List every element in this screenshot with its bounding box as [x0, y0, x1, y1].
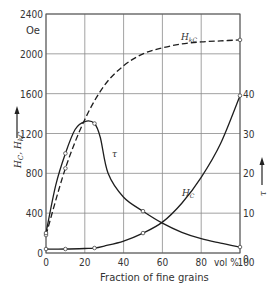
grid	[46, 14, 240, 253]
curve-label-hkc: HkC	[180, 32, 197, 43]
arrow-up-icon	[260, 157, 265, 185]
chart: 04008001200160020002400 010203040 020406…	[0, 0, 272, 286]
x-tick: 100	[237, 257, 254, 268]
series-line-	[46, 121, 240, 247]
data-point-marker	[141, 209, 145, 213]
y-tick-right: 30	[243, 129, 255, 140]
y-tick-right: 40	[243, 89, 255, 100]
data-point-marker	[44, 231, 48, 235]
y-tick-right: 10	[243, 208, 255, 219]
curve-label-tau: τ	[112, 149, 118, 159]
data-point-marker	[44, 247, 48, 251]
y-axis-right-ticks: 010203040	[243, 89, 255, 265]
x-tick: 60	[157, 257, 169, 268]
y-tick-left: 1600	[20, 89, 43, 100]
y-axis-left-label: HC, HkC	[13, 131, 25, 169]
y-tick-right: 20	[243, 168, 255, 179]
y-tick-left: 400	[26, 208, 43, 219]
y-tick-left: 2400	[20, 9, 43, 20]
data-point-marker	[64, 152, 68, 156]
data-point-marker	[93, 122, 97, 126]
x-tick: 80	[195, 257, 207, 268]
data-point-marker	[141, 231, 145, 235]
data-point-marker	[238, 245, 242, 249]
series-line-hc	[46, 96, 240, 249]
data-point-marker	[238, 38, 242, 42]
y-tick-left: 2000	[20, 49, 43, 60]
series-line-hkc	[46, 40, 240, 235]
svg-text:HC, HkC: HC, HkC	[13, 131, 25, 169]
x-axis-label: Fraction of fine grains	[100, 272, 209, 283]
unit-oe-label: Oe	[26, 25, 40, 36]
svg-text:τ: τ	[258, 190, 268, 196]
data-point-marker	[64, 247, 68, 251]
data-point-marker	[64, 167, 68, 171]
x-axis-unit: vol %	[214, 257, 239, 268]
x-tick: 0	[43, 257, 49, 268]
data-point-marker	[238, 94, 242, 98]
y-tick-left: 800	[26, 168, 43, 179]
series-group	[44, 38, 242, 251]
y-axis-right-label: τ	[258, 190, 268, 196]
data-point-marker	[93, 246, 97, 250]
x-tick: 40	[118, 257, 130, 268]
x-tick: 20	[79, 257, 91, 268]
